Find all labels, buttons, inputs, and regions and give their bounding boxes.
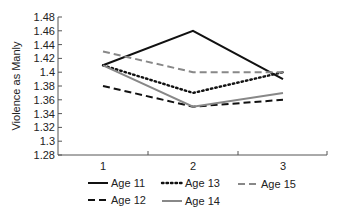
y-tick-label: 1.44: [34, 39, 55, 51]
y-tick-label: 1.4: [40, 66, 55, 78]
y-axis-title: Violence as Manly: [10, 41, 22, 131]
y-tick-label: 1.48: [34, 11, 55, 23]
series-lines: [103, 31, 283, 107]
y-tick-label: 1.36: [34, 94, 55, 106]
x-axis: 123: [58, 151, 327, 172]
y-tick-label: 1.42: [34, 52, 55, 64]
y-tick-label: 1.32: [34, 121, 55, 133]
legend-label: Age 15: [261, 178, 296, 190]
legend-label: Age 11: [111, 177, 145, 189]
x-tick-label: 3: [280, 160, 286, 172]
legend: Age 11Age 12Age 13Age 14Age 15: [88, 177, 296, 207]
legend-label: Age 14: [185, 195, 220, 207]
x-tick-label: 1: [100, 160, 106, 172]
y-axis: 1.481.461.441.421.41.381.361.341.321.31.…: [34, 11, 62, 161]
y-tick-label: 1.34: [34, 108, 55, 120]
y-tick-label: 1.46: [34, 25, 55, 37]
legend-label: Age 13: [185, 177, 220, 189]
y-tick-label: 1.38: [34, 80, 55, 92]
y-tick-label: 1.3: [40, 135, 55, 147]
series-line-age-13: [103, 65, 283, 93]
x-tick-label: 2: [190, 160, 196, 172]
y-tick-label: 1.28: [34, 149, 55, 161]
legend-label: Age 12: [111, 194, 146, 206]
line-chart: 1.481.461.441.421.41.381.361.341.321.31.…: [0, 0, 345, 220]
